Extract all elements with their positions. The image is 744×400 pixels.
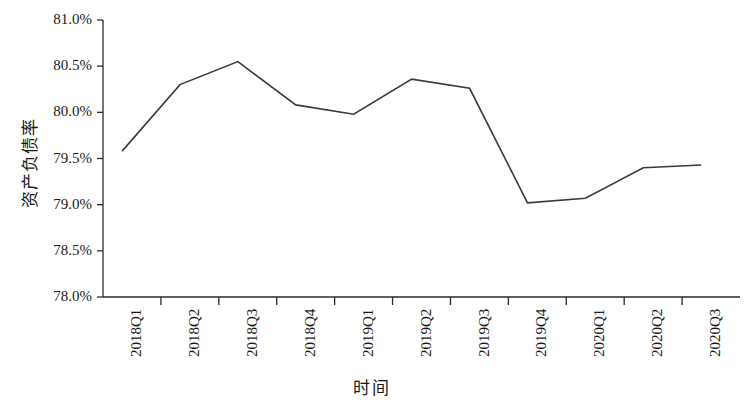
data-series-line [122,62,701,203]
chart-figure: 资产负债率 时间 81.0%80.5%80.0%79.5%79.0%78.5%7… [0,0,744,400]
x-tick-marks [161,297,682,305]
line-plot-canvas [0,0,744,400]
plot-axes [103,20,740,297]
y-tick-marks [97,20,103,297]
